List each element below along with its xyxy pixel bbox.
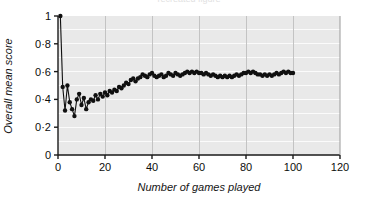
x-tick-label: 120 (331, 161, 349, 173)
line-chart: 00·20·40·60·81 020406080100120 Overall m… (0, 0, 378, 199)
x-tick-label: 80 (240, 161, 252, 173)
y-tick-label: 1 (45, 10, 51, 22)
y-tick-label: 0 (45, 149, 51, 161)
y-tick-label: 0·6 (35, 66, 51, 78)
x-tick-label: 20 (99, 161, 111, 173)
y-tick-label: 0·2 (35, 121, 51, 133)
y-tick-label: 0·8 (35, 38, 51, 50)
x-tick-label: 40 (146, 161, 158, 173)
x-tick-label: 60 (193, 161, 205, 173)
x-axis-title: Number of games played (138, 181, 262, 193)
x-axis-tick-labels: 020406080100120 (55, 161, 349, 173)
figure-container: recreated figure 00·20·40·60·81 02040608… (0, 0, 378, 199)
x-tick-label: 100 (284, 161, 302, 173)
y-axis-title: Overall mean score (2, 38, 14, 133)
y-axis-tick-labels: 00·20·40·60·81 (35, 10, 51, 161)
y-tick-label: 0·4 (35, 93, 51, 105)
x-tick-label: 0 (55, 161, 61, 173)
